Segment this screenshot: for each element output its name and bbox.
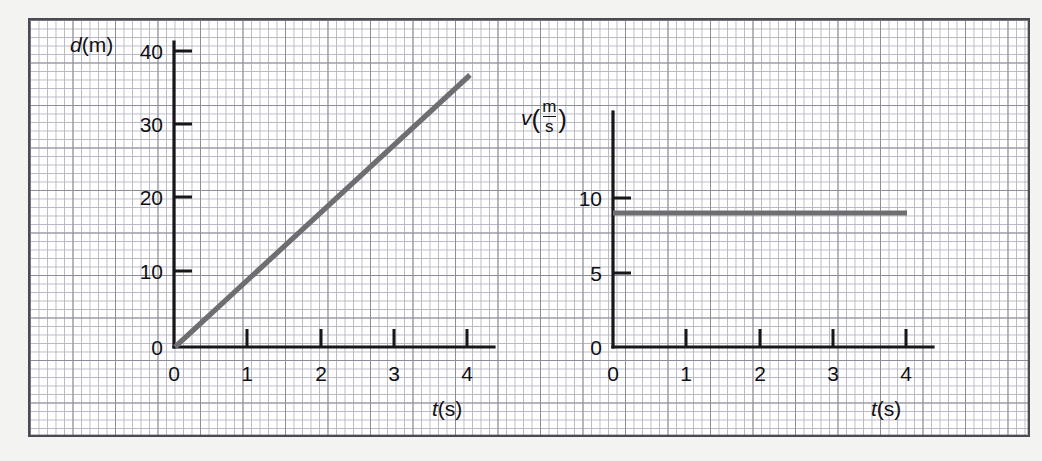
- right-y-tick-label-0: 0: [590, 336, 602, 359]
- right-x-axis-unit: s: [884, 397, 895, 420]
- chart-velocity-vs-time: [613, 112, 933, 347]
- left-data-line: [175, 75, 470, 347]
- right-x-tick-label-1: 1: [680, 362, 692, 385]
- left-x-axis-label: t(s): [432, 398, 462, 419]
- right-x-tick-label-2: 2: [754, 362, 766, 385]
- right-x-axis-label: t(s): [871, 398, 901, 419]
- right-y-axis-symbol: v: [521, 107, 532, 128]
- right-y-tick-label-10: 10: [579, 187, 602, 210]
- left-y-axis-close-paren: ): [106, 33, 113, 56]
- right-x-tick-label-0: 0: [607, 362, 619, 385]
- left-x-axis-unit: s: [445, 397, 456, 420]
- right-y-axis-unit-numerator: m: [540, 98, 558, 116]
- chart-distance-vs-time: [174, 42, 494, 347]
- left-x-tick-label-0: 0: [168, 362, 180, 385]
- figure-canvas: 40 30 20 10 0 0 1 2 3 4 10 5 0 0 1 2 3 4…: [0, 0, 1042, 461]
- right-x-axis-open-paren: (: [877, 397, 884, 420]
- plots-layer: 40 30 20 10 0 0 1 2 3 4 10 5 0 0 1 2 3 4: [0, 0, 1042, 461]
- left-y-tick-label-0: 0: [151, 336, 163, 359]
- left-y-axis-symbol: d: [70, 33, 82, 56]
- left-x-tick-label-4: 4: [461, 362, 473, 385]
- left-y-tick-label-40: 40: [140, 40, 163, 63]
- right-y-tick-label-5: 5: [590, 262, 602, 285]
- left-y-axis-open-paren: (: [82, 33, 89, 56]
- right-y-axis-close-paren: ): [558, 106, 567, 132]
- left-x-axis-open-paren: (: [438, 397, 445, 420]
- left-x-tick-label-3: 3: [388, 362, 400, 385]
- left-y-tick-label-20: 20: [140, 186, 163, 209]
- left-x-tick-label-2: 2: [315, 362, 327, 385]
- right-x-tick-label-3: 3: [827, 362, 839, 385]
- left-y-tick-label-30: 30: [140, 113, 163, 136]
- left-x-tick-label-1: 1: [241, 362, 253, 385]
- right-x-tick-label-4: 4: [900, 362, 912, 385]
- right-y-axis-open-paren: (: [532, 106, 541, 132]
- left-y-axis-label: d(m): [70, 34, 113, 55]
- right-x-axis-close-paren: ): [894, 397, 901, 420]
- left-y-tick-label-10: 10: [140, 260, 163, 283]
- right-y-axis-unit-denominator: s: [543, 116, 556, 135]
- right-y-axis-label: v(ms): [521, 99, 567, 136]
- left-x-axis-close-paren: ): [455, 397, 462, 420]
- left-y-axis-unit: m: [89, 33, 107, 56]
- right-y-axis-unit-fraction: ms: [540, 98, 558, 135]
